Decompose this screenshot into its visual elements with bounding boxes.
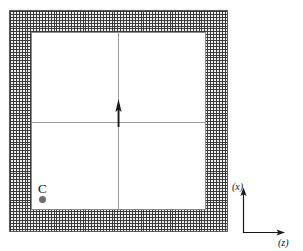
axis-label-z: (z) [278,238,289,248]
axis-label-x: (x) [232,182,243,192]
point-c-label: C [38,182,47,195]
figure-canvas: C (x) (z) [0,0,303,251]
centre-arrow-icon [112,98,125,128]
coordinate-triad [238,186,288,236]
point-c-marker [39,196,46,203]
